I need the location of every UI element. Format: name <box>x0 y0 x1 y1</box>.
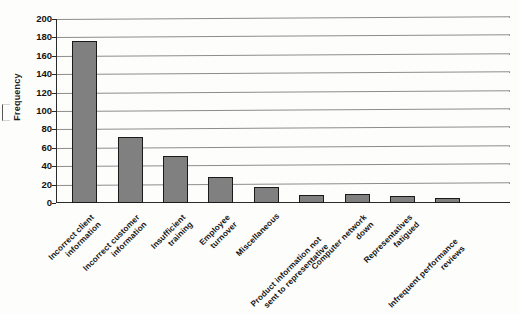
bar <box>254 187 279 203</box>
scan-artifact-mark <box>2 104 10 121</box>
y-axis-tick-label: 40 <box>24 161 52 171</box>
bar <box>208 177 233 203</box>
x-axis-label: Insufficient training <box>149 213 194 258</box>
y-axis-tick-label: 180 <box>24 33 52 43</box>
y-axis-title: Frequency <box>12 62 22 132</box>
x-axis-label: Miscellaneous <box>234 211 281 258</box>
y-axis-tick-label: 120 <box>24 88 52 98</box>
y-axis-tick-label: 80 <box>24 125 52 135</box>
y-axis-tick-label: 60 <box>24 143 52 153</box>
bar <box>299 195 324 203</box>
bar <box>435 198 460 203</box>
y-axis-tick-label: 20 <box>24 180 52 190</box>
x-axis-label: Employee turnover <box>198 213 240 255</box>
bar <box>163 156 188 203</box>
bar <box>118 137 143 203</box>
bar <box>390 196 415 203</box>
bar <box>72 41 97 203</box>
bar-series <box>56 19 510 203</box>
y-axis-tick-labels: 200180160140120100806040200 <box>24 14 52 204</box>
y-axis-tick-label: 100 <box>24 106 52 116</box>
plot-area <box>56 19 510 203</box>
pareto-bar-chart: Frequency 200180160140120100806040200 In… <box>0 0 519 314</box>
y-axis-tick-label: 200 <box>24 14 52 24</box>
y-axis-tick-label: 160 <box>24 51 52 61</box>
y-axis-tick-label: 140 <box>24 69 52 79</box>
bar <box>345 194 370 203</box>
x-axis-category-labels: Incorrect client informationIncorrect cu… <box>0 204 519 314</box>
